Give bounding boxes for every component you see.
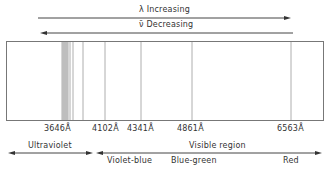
- line-label-6563: 6563Å: [277, 124, 304, 133]
- line-label-4341: 4341Å: [127, 124, 154, 133]
- line-label-3646: 3646Å: [44, 124, 71, 133]
- wavenumber-decreasing-label: ν̄ Decreasing: [139, 20, 193, 29]
- line-label-4102: 4102Å: [92, 124, 119, 133]
- red-label: Red: [283, 156, 299, 165]
- visible-range-arrow: [96, 151, 322, 155]
- spectrum-frame: [7, 42, 324, 121]
- violet-blue-label: Violet-blue: [107, 156, 152, 165]
- line-label-4861: 4861Å: [177, 124, 204, 133]
- visible-region-label: Visible region: [189, 141, 246, 150]
- ultraviolet-label: Ultraviolet: [28, 141, 72, 150]
- wavenumber-decreasing-arrow: [40, 31, 293, 35]
- blue-green-label: Blue-green: [171, 156, 217, 165]
- ultraviolet-range-arrow: [8, 151, 93, 155]
- lambda-increasing-label: λ Increasing: [139, 5, 190, 14]
- spectral-lines: [62, 42, 291, 120]
